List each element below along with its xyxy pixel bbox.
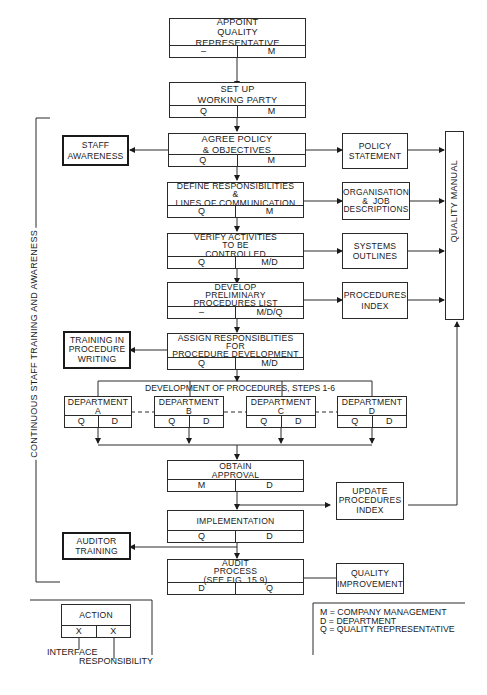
box-title: QUALITY IMPROVEMENT (337, 564, 403, 593)
continuous-training-label: CONTINUOUS STAFF TRAINING AND AWARENESS (29, 228, 39, 460)
implementation-box: IMPLEMENTATION QD (167, 510, 304, 543)
interface-code: – (168, 307, 235, 318)
develop-procedures-list-box: DEVELOP PRELIMINARY PROCEDURES LIST –M/D… (167, 282, 304, 319)
interface-code: Q (168, 206, 235, 217)
update-procedures-index-box: UPDATE PROCEDURES INDEX (336, 482, 404, 520)
box-title: PROCEDURES INDEX (343, 283, 407, 318)
responsibility-code: D (235, 480, 303, 491)
box-title: DEVELOP PRELIMINARY PROCEDURES LIST (168, 283, 303, 307)
box-title: UPDATE PROCEDURES INDEX (337, 483, 403, 519)
verify-activities-box: VERIFY ACTIVITIES TO BE CONTROLLED QM/D (167, 233, 304, 269)
responsibility-code: D (281, 416, 316, 427)
set-up-working-party-box: SET UP WORKING PARTY QM (169, 82, 306, 118)
interface-code: Q (169, 155, 237, 166)
box-title: AUDITOR TRAINING (64, 534, 129, 558)
interface-code: Q (247, 416, 281, 427)
assign-responsibilities-box: ASSIGN RESPONSIBLITIES FOR PROCEDURE DEV… (167, 333, 304, 370)
box-title: OBTAIN APPROVAL (168, 461, 303, 480)
responsibility-code: Q (235, 583, 303, 594)
box-title: SYSTEMS OUTLINES (343, 234, 407, 268)
quality-improvement-box: QUALITY IMPROVEMENT (336, 563, 404, 594)
responsibility-code: D (189, 416, 224, 427)
policy-statement-box: POLICY STATEMENT (342, 133, 408, 169)
responsibility-code: M/D/Q (235, 307, 303, 318)
responsibility-code: M (235, 206, 303, 217)
box-title: DEPARTMENT A (65, 397, 131, 416)
define-responsibilities-box: DEFINE RESPONSIBILITIES & LINES OF COMMU… (167, 182, 304, 218)
interface-code: Q (168, 358, 235, 369)
interface-code: – (170, 46, 237, 57)
staff-awareness-box: STAFF AWARENESS (62, 135, 129, 166)
audit-process-box: AUDIT PROCESS (SEE FIG. 15.9) DQ (167, 559, 304, 595)
quality-manual-box: QUALITY MANUAL (445, 131, 464, 320)
interface-code: Q (170, 106, 237, 117)
box-title: DEFINE RESPONSIBILITIES & LINES OF COMMU… (168, 183, 303, 206)
organisation-job-descriptions-box: ORGANISATION & JOB DESCRIPTIONS (342, 182, 410, 220)
box-title: DEPARTMENT C (247, 397, 315, 416)
responsibility-code: M (237, 106, 305, 117)
box-title: APPOINT QUALITY REPRESENTATIVE (170, 19, 305, 46)
legend-action-box: ACTION XX (61, 604, 131, 638)
box-title: AUDIT PROCESS (SEE FIG. 15.9) (168, 560, 303, 583)
department-a-box: DEPARTMENT A QD (64, 396, 132, 428)
responsibility-code: D (98, 416, 132, 427)
box-title: ORGANISATION & JOB DESCRIPTIONS (343, 183, 409, 219)
legend-action-label: ACTION (62, 605, 130, 626)
responsibility-code: M/D (235, 358, 303, 369)
appoint-quality-representative-box: APPOINT QUALITY REPRESENTATIVE –M (169, 18, 306, 58)
systems-outlines-box: SYSTEMS OUTLINES (342, 233, 408, 269)
interface-code: Q (65, 416, 98, 427)
box-title: IMPLEMENTATION (168, 511, 303, 531)
auditor-training-box: AUDITOR TRAINING (62, 532, 131, 560)
legend-key: M = COMPANY MANAGEMENT D = DEPARTMENT Q … (320, 608, 455, 634)
box-title: AGREE POLICY & OBJECTIVES (169, 134, 305, 155)
box-title: DEPARTMENT D (338, 397, 406, 416)
box-title: ASSIGN RESPONSIBLITIES FOR PROCEDURE DEV… (168, 334, 303, 358)
box-title: SET UP WORKING PARTY (170, 83, 305, 106)
responsibility-code: M (237, 155, 306, 166)
interface-code: Q (155, 416, 189, 427)
responsibility-code: M/D (235, 257, 303, 268)
legend-responsibility-label: RESPONSIBILITY (79, 657, 153, 667)
agree-policy-box: AGREE POLICY & OBJECTIVES QM (168, 133, 306, 167)
obtain-approval-box: OBTAIN APPROVAL MD (167, 460, 304, 492)
department-d-box: DEPARTMENT D QD (337, 396, 407, 428)
box-title: STAFF AWARENESS (64, 137, 127, 164)
interface-code: Q (168, 257, 235, 268)
interface-code: Q (168, 531, 235, 542)
legend-interface-x: X (62, 626, 96, 637)
box-title: POLICY STATEMENT (343, 134, 407, 168)
department-b-box: DEPARTMENT B QD (154, 396, 224, 428)
box-title: TRAINING IN PROCEDURE WRITING (65, 333, 129, 367)
interface-code: Q (338, 416, 372, 427)
interface-code: M (168, 480, 235, 491)
box-title: VERIFY ACTIVITIES TO BE CONTROLLED (168, 234, 303, 257)
interface-code: D (168, 583, 235, 594)
department-c-box: DEPARTMENT C QD (246, 396, 316, 428)
responsibility-code: D (372, 416, 407, 427)
development-of-procedures-label: DEVELOPMENT OF PROCEDURES, STEPS 1-6 (140, 383, 340, 394)
box-title: DEPARTMENT B (155, 397, 223, 416)
quality-manual-label: QUALITY MANUAL (449, 160, 459, 243)
responsibility-code: M (237, 46, 305, 57)
responsibility-code: D (235, 531, 303, 542)
procedures-index-box: PROCEDURES INDEX (342, 282, 408, 319)
legend-responsibility-x: X (96, 626, 131, 637)
training-procedure-writing-box: TRAINING IN PROCEDURE WRITING (63, 331, 131, 369)
